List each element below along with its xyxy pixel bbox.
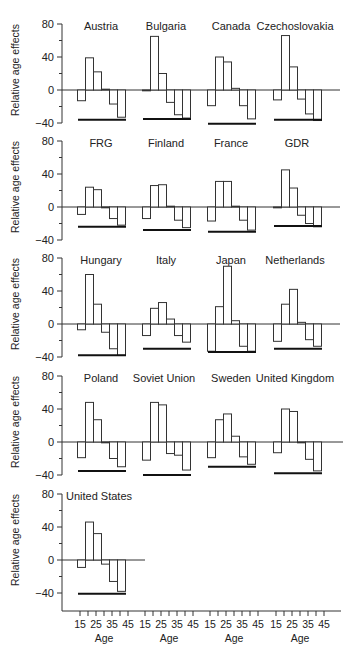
bar <box>240 442 248 457</box>
x-tick-label: 25 <box>286 618 298 630</box>
y-axis-label: Relative age effects <box>9 376 21 468</box>
panel-title: United Kingdom <box>256 372 334 384</box>
bar <box>86 275 94 325</box>
y-tick-label: 40 <box>42 403 54 415</box>
panel-canada: Canada <box>208 20 257 124</box>
bar <box>78 90 86 101</box>
bar <box>282 304 290 324</box>
panel-row-1: 80400−40Relative age effectsAustriaBulga… <box>9 18 340 129</box>
bar <box>274 442 282 453</box>
bar <box>290 188 298 207</box>
bar <box>175 442 183 455</box>
x-tick-label: 45 <box>252 618 264 630</box>
bar <box>216 57 224 90</box>
bar <box>183 90 191 118</box>
bar <box>282 36 290 90</box>
bar <box>86 187 94 207</box>
bar <box>78 442 86 458</box>
panel-title: Italy <box>156 254 177 266</box>
y-tick-label: 80 <box>42 135 54 147</box>
bar <box>282 170 290 207</box>
bar <box>208 90 216 106</box>
bar <box>248 442 256 464</box>
bar <box>298 442 306 443</box>
bar <box>94 72 102 90</box>
bar <box>290 289 298 324</box>
bar <box>143 207 151 219</box>
x-tick-label: 15 <box>270 618 282 630</box>
y-tick-label: 0 <box>48 554 54 566</box>
bar <box>183 324 191 342</box>
bar <box>274 324 282 341</box>
bar <box>94 420 102 442</box>
y-tick-label: 40 <box>42 51 54 63</box>
bar <box>282 409 290 442</box>
bar <box>175 90 183 115</box>
bar <box>118 207 126 225</box>
panel-frg: FRG <box>78 137 127 227</box>
panel-title: Hungary <box>80 254 122 266</box>
bar <box>110 90 118 104</box>
panel-title: Austria <box>84 20 119 32</box>
bar <box>183 207 191 228</box>
panel-row-5: 80400−40Relative age effectsUnited State… <box>9 488 145 599</box>
bar <box>306 90 314 114</box>
x-axis-label: Age <box>95 632 114 644</box>
panel-finland: Finland <box>143 137 192 230</box>
panel-netherlands: Netherlands <box>265 254 325 349</box>
panel-italy: Italy <box>143 254 192 349</box>
y-axis-label: Relative age effects <box>9 141 21 233</box>
panel-gdr: GDR <box>274 137 323 227</box>
bar <box>224 414 232 442</box>
bar <box>167 442 175 454</box>
bar <box>86 58 94 90</box>
y-tick-label: 40 <box>42 285 54 297</box>
panel-title: Japan <box>216 254 246 266</box>
panel-title: GDR <box>285 137 310 149</box>
bar <box>110 442 118 459</box>
bar <box>159 303 167 324</box>
x-tick-label: 25 <box>220 618 232 630</box>
bar <box>159 185 167 207</box>
panel-title: Sweden <box>211 372 251 384</box>
panel-bulgaria: Bulgaria <box>143 20 192 119</box>
bar <box>290 411 298 442</box>
bar <box>94 534 102 560</box>
bar <box>94 304 102 324</box>
bar <box>175 207 183 220</box>
y-tick-label: 0 <box>48 201 54 213</box>
bar <box>224 266 232 324</box>
bar <box>240 207 248 220</box>
bar <box>298 207 306 215</box>
bar <box>306 442 314 459</box>
bar <box>224 62 232 90</box>
x-tick-label: 45 <box>187 618 199 630</box>
bar <box>314 442 322 471</box>
panel-row-4: 80400−40Relative age effectsPolandSoviet… <box>9 370 343 481</box>
panel-title: Bulgaria <box>146 20 187 32</box>
panel-title: Canada <box>212 20 251 32</box>
bar <box>175 324 183 336</box>
panel-title: Finland <box>148 137 184 149</box>
bar <box>274 90 282 100</box>
y-axis-label: Relative age effects <box>9 24 21 116</box>
panel-row-2: 80400−40Relative age effectsFRGFinlandFr… <box>9 135 340 246</box>
x-tick-label: 35 <box>171 618 183 630</box>
y-tick-label: 40 <box>42 521 54 533</box>
bar <box>216 420 224 442</box>
panel-title: Poland <box>84 372 118 384</box>
y-tick-label: 0 <box>48 84 54 96</box>
x-axis-label: Age <box>225 632 244 644</box>
bar <box>102 207 110 208</box>
x-tick-label: 35 <box>236 618 248 630</box>
y-tick-label: −40 <box>35 469 54 481</box>
x-tick-label: 25 <box>90 618 102 630</box>
panel-sweden: Sweden <box>208 372 257 467</box>
bar <box>151 308 159 324</box>
bar <box>274 207 282 208</box>
panel-united-states: United States <box>66 490 133 594</box>
bar <box>216 181 224 207</box>
panel-hungary: Hungary <box>78 254 127 355</box>
panel-title: United States <box>66 490 133 502</box>
bar <box>78 324 86 330</box>
